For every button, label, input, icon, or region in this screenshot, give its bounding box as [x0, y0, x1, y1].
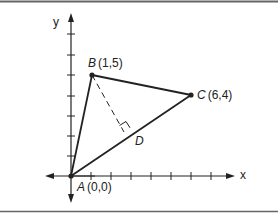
- point-A-label: A(0,0): [77, 181, 112, 193]
- point-C-label: C(6,4): [197, 89, 232, 101]
- point-D-name: D: [135, 134, 144, 148]
- x-axis-label: x: [240, 169, 246, 181]
- right-angle-marker-icon: [120, 122, 131, 128]
- y-axis-down-arrow-icon: [68, 194, 74, 203]
- coordinate-diagram: [0, 0, 278, 214]
- x-axis-left-arrow-icon: [45, 173, 54, 179]
- point-A-coords: (0,0): [87, 180, 112, 194]
- point-C-coords: (6,4): [208, 88, 233, 102]
- segment-BD-dashed: [92, 75, 124, 132]
- point-A: [68, 173, 73, 178]
- point-B-label: B(1,5): [88, 57, 123, 69]
- segment-AC: [71, 95, 191, 176]
- x-axis-right-arrow-icon: [226, 173, 235, 179]
- diagram-frame: y x A(0,0) B(1,5) C(6,4) D: [0, 0, 278, 214]
- y-axis-up-arrow-icon: [68, 13, 74, 22]
- point-B-coords: (1,5): [98, 56, 123, 70]
- segment-BC: [92, 75, 191, 95]
- point-C: [188, 92, 193, 97]
- y-axis-label: y: [53, 16, 59, 28]
- segment-AB: [71, 75, 92, 176]
- point-C-name: C: [197, 88, 206, 102]
- point-D-label: D: [135, 135, 144, 147]
- point-A-name: A: [77, 180, 85, 194]
- point-B-name: B: [88, 56, 96, 70]
- point-B: [89, 72, 94, 77]
